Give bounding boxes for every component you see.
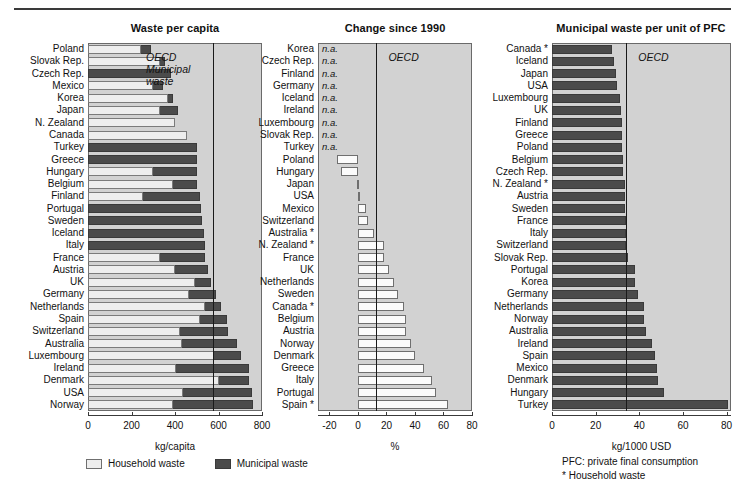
municipal-waste-pfc-bar: [552, 253, 628, 262]
axis-tick: [552, 412, 553, 416]
axis-tick-label: 20: [381, 420, 392, 431]
axis-tick-label: 60: [438, 420, 449, 431]
category-label: Luxembourg: [0, 92, 548, 103]
category-label: Denmark: [0, 374, 548, 385]
municipal-waste-legend-label: Municipal waste: [237, 458, 308, 469]
category-label: Czech Rep.: [0, 166, 548, 177]
legend: Household waste Municipal waste: [86, 458, 308, 469]
axis-tick: [727, 412, 728, 416]
category-label: Greece: [0, 129, 548, 140]
x-axis-title-middle: %: [391, 441, 400, 452]
municipal-waste-pfc-bar: [552, 315, 644, 324]
municipal-waste-pfc-bar: [552, 204, 625, 213]
axis-tick: [358, 412, 359, 416]
municipal-waste-pfc-bar: [552, 106, 621, 115]
category-label: N. Zealand *: [0, 178, 548, 189]
axis-line: [552, 415, 731, 416]
municipal-waste-pfc-bar: [552, 192, 625, 201]
axis-tick-label: 80: [721, 420, 732, 431]
note-household: * Household waste: [562, 470, 645, 481]
oecd-annotation-right: OECD: [638, 51, 668, 63]
category-label: Belgium: [0, 154, 548, 165]
category-label: Germany: [0, 288, 548, 299]
municipal-waste-pfc-bar: [552, 265, 635, 274]
municipal-waste-pfc-bar: [552, 229, 626, 238]
axis-tick-label: 400: [167, 420, 184, 431]
axis-tick-label: 40: [634, 420, 645, 431]
axis-tick-label: 0: [355, 420, 361, 431]
category-label: Canada *: [0, 43, 548, 54]
oecd-reference-line-right: [626, 43, 627, 411]
municipal-waste-pfc-bar: [552, 45, 612, 54]
municipal-waste-pfc-bar: [552, 351, 655, 360]
category-label: Italy: [0, 227, 548, 238]
municipal-waste-pfc-bar: [552, 131, 622, 140]
municipal-waste-pfc-bar: [552, 388, 664, 397]
municipal-waste-pfc-bar: [552, 167, 623, 176]
category-label: Austria: [0, 190, 548, 201]
category-label: Sweden: [0, 203, 548, 214]
category-label: Hungary: [0, 387, 548, 398]
axis-tick-label: 20: [590, 420, 601, 431]
municipal-waste-pfc-bar: [552, 302, 644, 311]
municipal-waste-pfc-bar: [552, 81, 617, 90]
category-label: Mexico: [0, 362, 548, 373]
axis-tick: [386, 412, 387, 416]
axis-tick-label: -20: [322, 420, 336, 431]
municipal-waste-pfc-bar: [552, 216, 626, 225]
municipal-waste-pfc-bar: [552, 241, 626, 250]
municipal-waste-swatch: [215, 459, 231, 469]
municipal-waste-pfc-bar: [552, 143, 622, 152]
category-label: Australia: [0, 325, 548, 336]
household-waste-swatch: [86, 459, 102, 469]
category-label: Ireland: [0, 338, 548, 349]
municipal-waste-pfc-bar: [552, 400, 728, 409]
municipal-waste-pfc-bar: [552, 278, 635, 287]
axis-tick: [262, 412, 263, 416]
waste-indicators-figure: Waste per capita PolandSlovak Rep.Czech …: [0, 0, 745, 496]
note-pfc: PFC: private final consumption: [562, 456, 698, 467]
axis-tick: [88, 412, 89, 416]
category-label: Slovak Rep.: [0, 252, 548, 263]
municipal-waste-pfc-bar: [552, 118, 622, 127]
axis-tick: [415, 412, 416, 416]
municipal-waste-pfc-bar: [552, 364, 657, 373]
category-label: Korea: [0, 276, 548, 287]
category-label: Norway: [0, 313, 548, 324]
category-label: Iceland: [0, 55, 548, 66]
axis-tick: [639, 412, 640, 416]
x-axis-title-left: kg/capita: [155, 441, 195, 452]
category-label: Poland: [0, 141, 548, 152]
axis-tick-label: 0: [549, 420, 555, 431]
category-label: Spain: [0, 350, 548, 361]
municipal-waste-pfc-bar: [552, 376, 658, 385]
axis-tick-label: 0: [85, 420, 91, 431]
panel-title-left: Waste per capita: [131, 22, 220, 34]
municipal-waste-pfc-bar: [552, 339, 652, 348]
household-waste-legend-label: Household waste: [108, 458, 185, 469]
category-label: UK: [0, 104, 548, 115]
category-label: Finland: [0, 117, 548, 128]
category-label: USA: [0, 80, 548, 91]
municipal-waste-pfc-bar: [552, 57, 614, 66]
axis-tick: [132, 412, 133, 416]
x-axis-title-right: kg/1000 USD: [612, 441, 671, 452]
municipal-waste-pfc-bar: [552, 180, 625, 189]
header-rule: [14, 8, 731, 10]
panel-title-middle: Change since 1990: [345, 22, 446, 34]
axis-tick: [472, 412, 473, 416]
category-label: Japan: [0, 68, 548, 79]
axis-tick: [443, 412, 444, 416]
axis-tick-label: 80: [466, 420, 477, 431]
axis-tick: [329, 412, 330, 416]
axis-tick-label: 600: [210, 420, 227, 431]
municipal-waste-pfc-bar: [552, 94, 620, 103]
axis-tick-label: 800: [254, 420, 271, 431]
axis-tick: [683, 412, 684, 416]
axis-tick: [175, 412, 176, 416]
category-label: Netherlands: [0, 301, 548, 312]
panel-title-right: Municipal waste per unit of PFC: [556, 22, 725, 34]
municipal-waste-pfc-bar: [552, 327, 646, 336]
category-label: Turkey: [0, 399, 548, 410]
municipal-waste-pfc-bar: [552, 69, 616, 78]
